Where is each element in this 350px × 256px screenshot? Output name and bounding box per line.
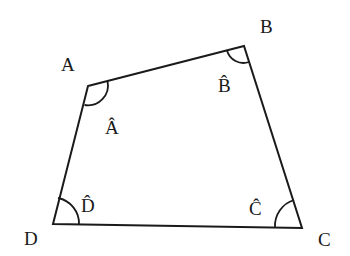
vertex-label-d: D [24, 228, 38, 249]
angle-label-a: Â [105, 117, 119, 138]
angle-label-c: Ĉ [249, 198, 262, 219]
vertex-label-b: B [260, 16, 273, 37]
angle-label-d: D̂ [81, 195, 95, 216]
quadrilateral-diagram: A B C D Â B̂ Ĉ D̂ [0, 0, 350, 256]
angle-arc-d [58, 198, 79, 225]
vertex-label-c: C [318, 229, 331, 250]
angle-arc-c [275, 200, 294, 228]
angle-label-b: B̂ [218, 75, 231, 96]
vertex-label-a: A [61, 54, 75, 75]
